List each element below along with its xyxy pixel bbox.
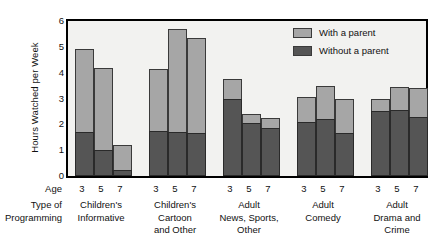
bar-segment-without-a-parent [168, 132, 187, 176]
age-row-header: Age [0, 183, 62, 194]
y-tick-label-3: 3 [0, 94, 64, 104]
chart-legend: With a parent Without a parent [293, 25, 389, 61]
age-tick-label: 5 [91, 183, 111, 194]
age-tick-label: 3 [368, 183, 388, 194]
age-tick-label: 3 [72, 183, 92, 194]
y-tick-label-5: 5 [0, 42, 64, 52]
legend-label-with-a-parent: With a parent [319, 27, 376, 38]
age-tick-label: 7 [110, 183, 130, 194]
age-tick-label: 3 [220, 183, 240, 194]
bar-segment-without-a-parent [409, 117, 428, 176]
y-tick-label-0: 0 [0, 171, 64, 181]
bar-segment-without-a-parent [297, 122, 316, 176]
bar-segment-without-a-parent [113, 170, 132, 176]
bar-segment-without-a-parent [316, 119, 335, 176]
age-tick-label: 5 [313, 183, 333, 194]
age-tick-label: 3 [294, 183, 314, 194]
bar-segment-without-a-parent [149, 131, 168, 176]
bar-segment-without-a-parent [94, 150, 113, 176]
age-tick-label: 7 [184, 183, 204, 194]
legend-item-without-a-parent: Without a parent [293, 43, 389, 58]
legend-swatch-icon-without-a-parent [293, 46, 312, 56]
age-tick-label: 3 [146, 183, 166, 194]
bar-segment-without-a-parent [223, 99, 242, 177]
bar-segment-without-a-parent [187, 133, 206, 176]
age-tick-label: 5 [165, 183, 185, 194]
y-tick-label-1: 1 [0, 145, 64, 155]
bar-segment-without-a-parent [261, 128, 280, 176]
age-tick-label: 5 [387, 183, 407, 194]
legend-item-with-a-parent: With a parent [293, 25, 389, 40]
chart-container: Hours Watched per Week 0123456 With a pa… [0, 0, 440, 239]
y-tick-label-4: 4 [0, 68, 64, 78]
y-tick-label-6: 6 [0, 16, 64, 26]
age-tick-label: 7 [406, 183, 426, 194]
bar-segment-without-a-parent [335, 133, 354, 176]
x-group-label: AdultDrama andCrime [342, 199, 440, 237]
bar-segment-without-a-parent [371, 111, 390, 176]
y-tick-label-2: 2 [0, 120, 64, 130]
age-tick-label: 5 [239, 183, 259, 194]
legend-swatch-icon-with-a-parent [293, 28, 312, 38]
age-tick-label: 7 [258, 183, 278, 194]
age-tick-label: 7 [332, 183, 352, 194]
legend-label-without-a-parent: Without a parent [319, 45, 389, 56]
bar-segment-without-a-parent [75, 132, 94, 176]
bar-segment-without-a-parent [242, 123, 261, 176]
bar-segment-without-a-parent [390, 110, 409, 176]
